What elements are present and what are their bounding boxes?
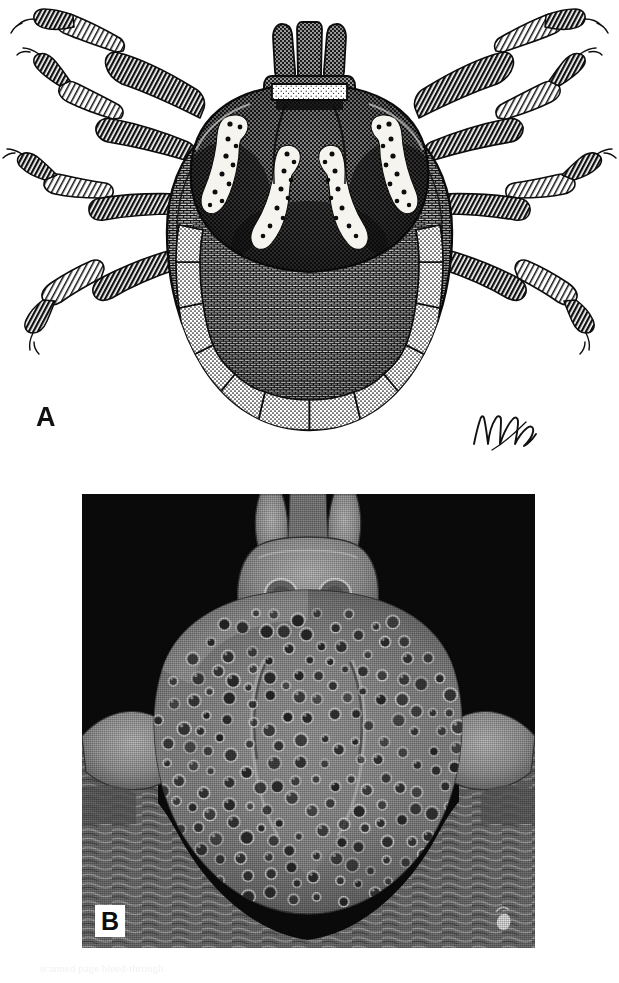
panel-a: A: [0, 0, 619, 470]
figure-plate: A: [0, 0, 619, 983]
panel-label-b: B: [95, 905, 125, 937]
panel-b: B: [82, 494, 535, 948]
page-bleed-text: scanned page bleed-through: [40, 962, 580, 978]
sem-micrograph: [82, 494, 535, 948]
tick-illustration: [0, 0, 619, 470]
panel-label-a: A: [36, 404, 56, 431]
